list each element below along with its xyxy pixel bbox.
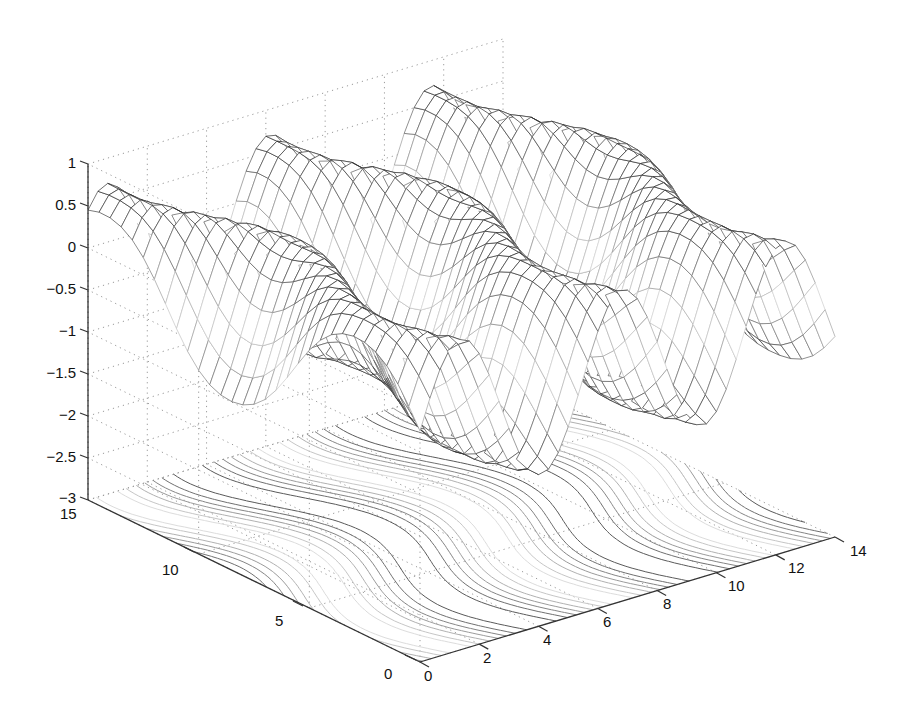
y-tick-label: 10 (162, 561, 179, 578)
x-axis-ticks (420, 537, 844, 667)
y-axis-labels: 15 10 5 0 (60, 505, 392, 682)
x-tick-label: 4 (543, 631, 551, 648)
y-tick-label: 15 (60, 505, 77, 522)
x-tick-label: 8 (663, 595, 671, 612)
z-tick-label: −3 (59, 489, 76, 506)
z-tick-label: −1.5 (46, 364, 76, 381)
x-tick-label: 0 (424, 667, 432, 684)
z-tick-label: 0 (68, 238, 76, 255)
x-axis-line (420, 537, 835, 662)
z-axis-ticks (80, 161, 88, 500)
surface-plot: 1 0.5 0 −0.5 −1 −1.5 −2 −2.5 −3 15 10 5 … (0, 0, 908, 721)
chart-figure: 1 0.5 0 −0.5 −1 −1.5 −2 −2.5 −3 15 10 5 … (0, 0, 908, 721)
z-tick-label: 1 (68, 154, 76, 171)
x-tick-label: 12 (788, 559, 805, 576)
y-tick-label: 0 (384, 665, 392, 682)
z-tick-label: −2.5 (46, 448, 76, 465)
x-tick-label: 10 (728, 577, 745, 594)
mesh-surface (88, 86, 835, 475)
x-tick-label: 14 (850, 542, 867, 559)
z-tick-label: −0.5 (46, 280, 76, 297)
x-tick-label: 6 (603, 613, 611, 630)
z-axis-labels: 1 0.5 0 −0.5 −1 −1.5 −2 −2.5 −3 (46, 154, 76, 506)
y-tick-label: 5 (275, 612, 283, 629)
y-axis-line (88, 500, 420, 662)
x-tick-label: 2 (483, 649, 491, 666)
z-tick-label: −1 (59, 322, 76, 339)
z-tick-label: 0.5 (55, 196, 76, 213)
z-tick-label: −2 (59, 406, 76, 423)
